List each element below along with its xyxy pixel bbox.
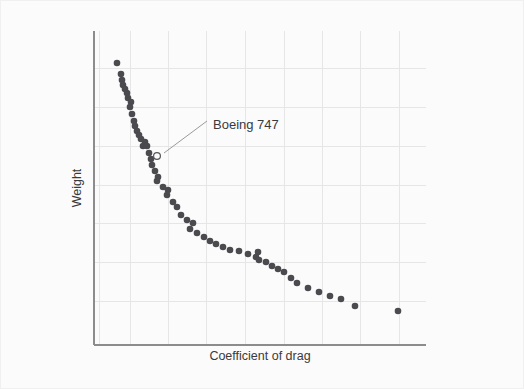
data-point — [245, 251, 252, 258]
data-point — [194, 230, 201, 237]
data-point — [187, 226, 194, 233]
data-point — [275, 266, 282, 273]
data-point — [201, 234, 208, 241]
data-point — [227, 247, 234, 254]
annotation-leader-line — [164, 121, 207, 153]
data-point — [184, 217, 191, 224]
data-point — [236, 248, 243, 255]
data-point — [263, 259, 270, 266]
data-point — [178, 212, 185, 219]
data-point — [118, 71, 125, 78]
scatter-plot-svg: Boeing 747 Coefficient of drag Weight — [1, 1, 524, 389]
highlighted-point-boeing-747 — [154, 153, 161, 160]
data-point — [281, 269, 288, 276]
data-point — [146, 150, 153, 157]
data-point — [190, 220, 197, 227]
data-point — [114, 60, 121, 67]
data-point — [174, 204, 181, 211]
data-point — [305, 285, 312, 292]
data-point — [154, 178, 161, 185]
data-point — [327, 293, 334, 300]
data-point — [213, 241, 220, 248]
highlighted-marker — [154, 153, 161, 160]
data-point — [164, 192, 171, 199]
axes — [94, 31, 426, 345]
chart-figure: Boeing 747 Coefficient of drag Weight — [0, 0, 524, 389]
data-point — [144, 143, 151, 150]
data-point — [129, 111, 136, 118]
leader-line — [164, 121, 207, 153]
data-point — [269, 263, 276, 270]
x-axis-label: Coefficient of drag — [209, 349, 310, 363]
y-axis-label: Weight — [70, 168, 84, 207]
data-point — [288, 275, 295, 282]
data-point — [294, 280, 301, 287]
data-point — [256, 257, 263, 264]
data-point — [127, 104, 134, 111]
data-point — [207, 238, 214, 245]
data-point — [149, 162, 156, 169]
data-point — [220, 244, 227, 251]
data-point — [395, 308, 402, 315]
data-point — [338, 296, 345, 303]
data-point — [152, 168, 159, 175]
data-points — [114, 60, 402, 315]
gridlines-vertical — [99, 31, 399, 345]
annotation-label-boeing-747: Boeing 747 — [213, 117, 279, 132]
data-point — [255, 249, 262, 256]
data-point — [352, 303, 359, 310]
gridlines-horizontal — [94, 68, 426, 301]
data-point — [316, 289, 323, 296]
